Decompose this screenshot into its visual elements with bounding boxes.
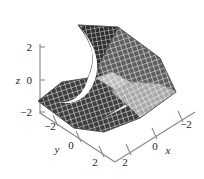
surface-mesh	[38, 25, 176, 132]
plot-canvas: 2 0 −2 z −2 0 2 y 2 0 −2 x	[0, 0, 204, 179]
y-tick-label-2: 2	[92, 156, 98, 168]
z-tick-label-minus2: −2	[20, 106, 32, 118]
y-tick-label-0: 0	[68, 139, 74, 151]
x-tick-label-2: 2	[122, 156, 128, 168]
z-tick-label-2: 2	[27, 41, 33, 53]
z-axis-label: z	[15, 74, 21, 86]
x-tick-label-0: 0	[152, 140, 158, 152]
y-axis-label: y	[54, 143, 60, 155]
x-tick-label-minus2: −2	[180, 118, 192, 130]
x-axis-label: x	[165, 144, 171, 156]
y-tick-label-minus2: −2	[44, 120, 56, 132]
z-tick-label-0: 0	[27, 74, 33, 86]
surface-plot-figure: 2 0 −2 z −2 0 2 y 2 0 −2 x	[0, 0, 204, 179]
